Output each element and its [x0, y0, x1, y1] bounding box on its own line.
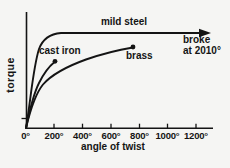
x-axis-label: angle of twist	[73, 142, 153, 152]
cast-iron-fracture-dot	[53, 59, 58, 64]
brass-label: brass	[126, 51, 153, 61]
brass-fracture-dot	[131, 45, 136, 50]
y-axis-label: torque	[5, 45, 17, 105]
x-tick-label-1200: 1200°	[178, 130, 214, 141]
mild-steel-label: mild steel	[96, 17, 152, 27]
broke-annotation-line1: broke	[183, 35, 221, 46]
brass-curve	[26, 48, 132, 128]
broke-annotation: broke at 2010°	[183, 35, 221, 56]
broke-annotation-line2: at 2010°	[183, 46, 221, 57]
torque-vs-twist-chart: torque mild steel cast iron brass broke …	[0, 0, 230, 168]
cast-iron-label: cast iron	[39, 46, 81, 56]
